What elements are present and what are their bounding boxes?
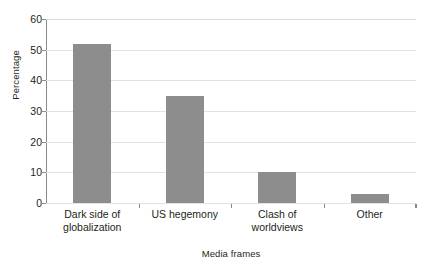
bar bbox=[166, 96, 204, 203]
y-axis-tick-label: 0 bbox=[0, 198, 42, 208]
x-axis-category-label-line2: worldviews bbox=[231, 221, 324, 234]
bar bbox=[258, 172, 296, 203]
x-axis-category-label: Dark side ofglobalization bbox=[46, 208, 139, 234]
y-axis-tick-label: 10 bbox=[0, 167, 42, 177]
bar bbox=[73, 44, 111, 203]
x-axis-end-tick bbox=[415, 204, 416, 208]
x-axis-title: Media frames bbox=[46, 248, 416, 259]
y-axis-tick bbox=[41, 50, 46, 51]
x-axis-category-label: US hegemony bbox=[139, 208, 232, 221]
y-axis-tick bbox=[41, 203, 46, 204]
bar bbox=[351, 194, 389, 203]
plot-area bbox=[46, 19, 416, 203]
x-axis-category-label: Other bbox=[324, 208, 417, 221]
y-axis-tick bbox=[41, 172, 46, 173]
x-axis-category-label-line1: Dark side of bbox=[64, 208, 120, 220]
gridline bbox=[46, 19, 416, 20]
y-axis-tick bbox=[41, 111, 46, 112]
x-axis-category-label-line1: Clash of bbox=[258, 208, 297, 220]
x-axis-category-label: Clash ofworldviews bbox=[231, 208, 324, 234]
x-axis-category-label-line2: globalization bbox=[46, 221, 139, 234]
y-axis-tick-label: 60 bbox=[0, 14, 42, 24]
y-axis-tick bbox=[41, 80, 46, 81]
y-axis-tick-labels: 0102030405060 bbox=[0, 0, 42, 273]
x-axis-category-label-line1: US hegemony bbox=[151, 208, 218, 220]
y-axis-tick-label: 20 bbox=[0, 137, 42, 147]
y-axis-tick bbox=[41, 142, 46, 143]
x-axis-category-label-line1: Other bbox=[357, 208, 383, 220]
x-axis-tick bbox=[139, 204, 140, 208]
x-axis-tick bbox=[324, 204, 325, 208]
bar-chart: Percentage 0102030405060 Dark side ofglo… bbox=[0, 0, 426, 273]
x-axis-category-labels: Dark side ofglobalizationUS hegemonyClas… bbox=[46, 208, 416, 248]
x-axis-tick bbox=[416, 204, 417, 208]
y-axis-tick-label: 50 bbox=[0, 45, 42, 55]
x-axis-tick bbox=[231, 204, 232, 208]
y-axis-tick-label: 40 bbox=[0, 75, 42, 85]
y-axis-tick-label: 30 bbox=[0, 106, 42, 116]
y-axis-tick bbox=[41, 19, 46, 20]
